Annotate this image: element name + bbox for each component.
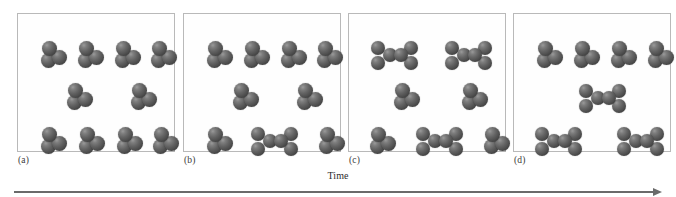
atom-sphere xyxy=(42,41,57,56)
panel-label-c: (c) xyxy=(349,155,360,165)
panel-label-d: (d) xyxy=(514,155,526,165)
atom-sphere xyxy=(612,41,627,56)
atom-sphere xyxy=(649,41,664,56)
atom-sphere xyxy=(132,83,147,98)
atom-sphere xyxy=(154,127,169,142)
panel-label-b: (b) xyxy=(184,155,196,165)
atom-sphere xyxy=(320,127,335,142)
atom-sphere xyxy=(371,127,386,142)
time-arrow-head-icon xyxy=(653,188,662,196)
atom-sphere xyxy=(318,41,333,56)
atom-sphere xyxy=(118,127,133,142)
atom-sphere xyxy=(298,83,313,98)
atom-sphere xyxy=(439,134,453,148)
atom-sphere xyxy=(394,48,408,62)
atom-sphere xyxy=(395,83,410,98)
atom-sphere xyxy=(234,83,249,98)
panel-label-a: (a) xyxy=(18,155,29,165)
atom-sphere xyxy=(274,134,288,148)
atom-sphere xyxy=(485,127,500,142)
panel-a xyxy=(17,13,175,152)
atom-sphere xyxy=(152,41,167,56)
atom-sphere xyxy=(640,134,654,148)
atom-sphere xyxy=(79,41,94,56)
time-arrow-shaft xyxy=(14,191,654,193)
atom-sphere xyxy=(116,41,131,56)
atom-sphere xyxy=(208,41,223,56)
atom-sphere xyxy=(575,41,590,56)
atom-sphere xyxy=(538,41,553,56)
atom-sphere xyxy=(282,41,297,56)
time-arrow-icon xyxy=(14,188,662,196)
atom-sphere xyxy=(468,48,482,62)
atom-sphere xyxy=(463,83,478,98)
atom-sphere xyxy=(42,127,57,142)
atom-sphere xyxy=(558,134,572,148)
molecular-time-series-figure: (a) (b) (c) (d) Time xyxy=(0,0,676,197)
atom-sphere xyxy=(208,127,223,142)
time-axis-label: Time xyxy=(0,170,676,181)
atom-sphere xyxy=(602,91,616,105)
atom-sphere xyxy=(245,41,260,56)
atom-sphere xyxy=(80,127,95,142)
atom-sphere xyxy=(68,83,83,98)
